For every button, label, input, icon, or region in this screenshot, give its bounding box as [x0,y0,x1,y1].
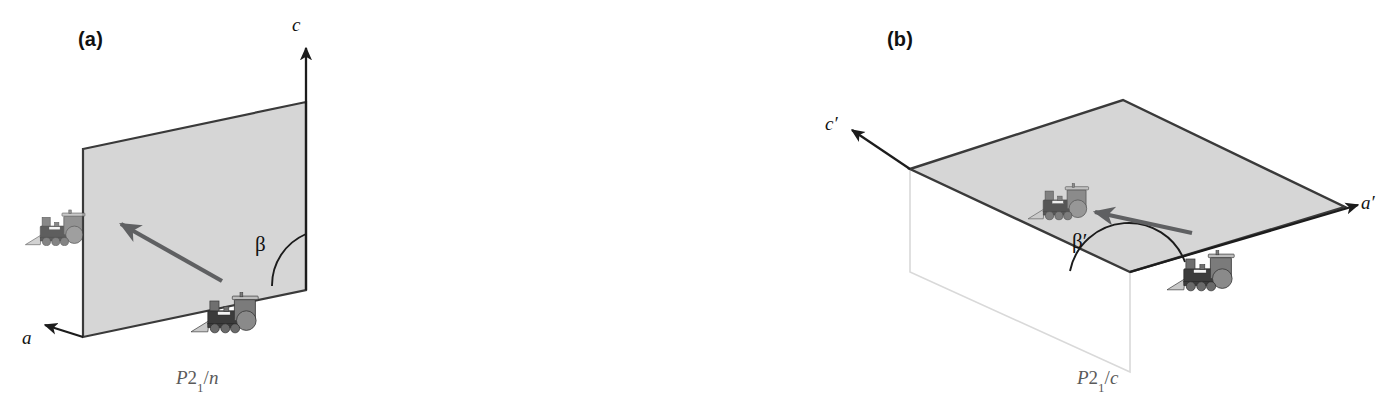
angle-beta-label: β [255,232,266,257]
sg-b-subscript: 1 [1098,380,1105,395]
spacegroup-label-a: P21/n [176,367,218,393]
axis-c-label: c [292,14,300,36]
panel-a-plane [83,102,306,337]
panel-b: (b) c′ a′ β′ P21/c [440,0,978,414]
sg-b-letter: P [1077,367,1089,388]
panel-a-locomotive-upper-left [25,210,85,246]
axis-c-prime [852,130,910,169]
spacegroup-label-b: P21/c [1077,367,1118,393]
axis-a [45,325,83,337]
sg-a-glide: n [209,367,219,388]
angle-beta-prime-label: β′ [1072,229,1087,254]
axis-c-prime-label: c′ [825,113,838,135]
panel-b-graphics [440,0,1380,414]
sg-a-letter: P [176,367,188,388]
sg-a-subscript: 1 [197,380,204,395]
panel-a: (a) c a β P21/n [0,0,489,414]
panel-a-caption-label: (a) [78,28,103,51]
sg-a-number: 2 [188,367,198,388]
axis-a-prime-label: a′ [1361,192,1375,214]
sg-b-number: 2 [1089,367,1099,388]
panel-b-caption-label: (b) [887,28,913,51]
panel-b-plane [910,100,1345,272]
sg-b-glide: c [1110,367,1118,388]
axis-a-label: a [22,327,32,349]
